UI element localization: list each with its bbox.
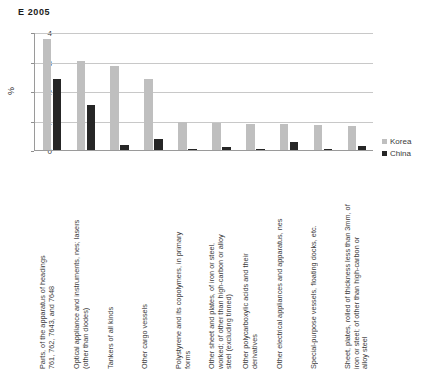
bar-china	[120, 145, 129, 150]
bar-china	[358, 146, 367, 150]
legend-label-china: China	[390, 149, 411, 158]
bar-group	[103, 33, 137, 150]
x-axis-category-label: Other polycarboxylic acids and their der…	[242, 155, 266, 369]
bar-korea	[280, 124, 289, 150]
bar-group	[205, 33, 239, 150]
x-axis-category-label: Other electrical appliances and apparatu…	[276, 155, 300, 369]
bar-china	[53, 79, 62, 150]
chart-legend: KoreaChina	[382, 136, 411, 160]
bar-group	[35, 33, 69, 150]
x-axis-category-label: Other cargo vessels	[141, 155, 165, 369]
bar-korea	[43, 39, 52, 151]
bar-group	[306, 33, 340, 150]
bar-china	[222, 147, 231, 150]
bar-china	[87, 105, 96, 150]
bar-china	[256, 149, 265, 150]
bar-korea	[246, 124, 255, 150]
bar-group	[171, 33, 205, 150]
x-axis-category-label: Sheet, plates, rolled of thickness less …	[344, 155, 368, 369]
x-axis-category-label: Polystyrene and its copolymers, in prima…	[175, 155, 199, 369]
bar-korea	[212, 123, 221, 150]
x-axis-category-labels: Parts, of the apparatus of headings 761,…	[34, 152, 373, 370]
bar-china	[154, 139, 163, 151]
bar-group	[340, 33, 374, 150]
legend-item[interactable]: China	[382, 148, 411, 159]
legend-swatch-korea	[382, 139, 387, 144]
plot-area	[34, 33, 373, 151]
chart-figure: E 2005 % 01234 Parts, of the apparatus o…	[0, 0, 428, 372]
legend-item[interactable]: Korea	[382, 136, 411, 147]
bar-korea	[77, 61, 86, 150]
x-axis-category-label: Other sheet and plates, of iron or steel…	[208, 155, 232, 369]
x-axis-category-label: Tankers of all kinds	[107, 155, 131, 369]
bar-china	[188, 149, 197, 150]
bar-korea	[178, 122, 187, 150]
bar-korea	[314, 125, 323, 150]
bar-group	[69, 33, 103, 150]
legend-swatch-china	[382, 151, 387, 156]
bar-china	[290, 142, 299, 150]
bar-korea	[348, 126, 357, 150]
legend-label-korea: Korea	[390, 137, 411, 146]
bar-china	[324, 149, 333, 150]
bar-korea	[110, 66, 119, 150]
bar-group	[137, 33, 171, 150]
x-axis-category-label: Parts, of the apparatus of headings 761,…	[39, 155, 63, 369]
bar-korea	[144, 79, 153, 150]
x-axis-category-label: Special-purpose vessels, floating docks,…	[310, 155, 334, 369]
bar-group	[238, 33, 272, 150]
bar-group	[272, 33, 306, 150]
x-axis-category-label: Optical appliance and instruments, nes; …	[73, 155, 97, 369]
